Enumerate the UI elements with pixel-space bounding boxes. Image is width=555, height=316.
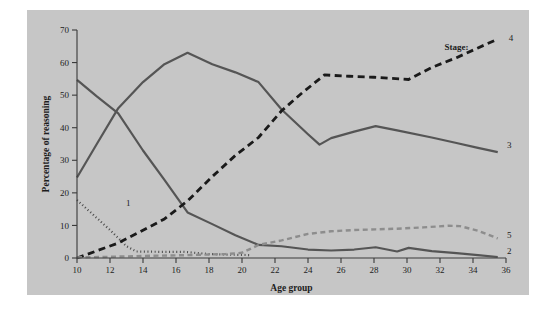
- series-line-3: [77, 53, 498, 178]
- x-tick-label: 28: [370, 265, 380, 275]
- legend-group: Stage:: [445, 42, 469, 52]
- x-tick-label: 24: [304, 265, 314, 275]
- x-tick-label: 18: [205, 265, 215, 275]
- line-chart: 0102030405060701012141618202224262830323…: [27, 10, 529, 295]
- y-tick-label: 40: [60, 123, 70, 133]
- x-tick-label: 34: [469, 265, 479, 275]
- y-tick-label: 20: [60, 188, 70, 198]
- series-label-2: 2: [507, 246, 512, 256]
- x-tick-label: 10: [73, 265, 83, 275]
- y-tick-label: 60: [60, 58, 70, 68]
- series-line-1: [77, 200, 250, 255]
- x-tick-label: 14: [139, 265, 149, 275]
- series-label-4: 4: [509, 33, 514, 43]
- y-tick-label: 10: [60, 221, 70, 231]
- x-tick-label: 20: [238, 265, 248, 275]
- figure-container: 0102030405060701012141618202224262830323…: [0, 0, 555, 316]
- x-tick-label: 12: [106, 265, 115, 275]
- x-tick-label: 30: [403, 265, 413, 275]
- x-tick-label: 36: [502, 265, 512, 275]
- y-tick-label: 70: [60, 25, 70, 35]
- chart-panel: 0102030405060701012141618202224262830323…: [27, 10, 529, 295]
- x-axis-title: Age group: [270, 283, 312, 293]
- y-axis-title: Percentage of reasoning: [41, 95, 51, 192]
- x-tick-label: 16: [172, 265, 182, 275]
- series-label-5: 5: [507, 230, 512, 240]
- y-tick-label: 0: [65, 253, 70, 263]
- series-label-3: 3: [507, 140, 512, 150]
- series-label-1: 1: [126, 198, 130, 208]
- y-tick-label: 50: [60, 90, 70, 100]
- x-tick-label: 26: [337, 265, 347, 275]
- series-line-4: [77, 39, 498, 258]
- axis-lines: [77, 30, 506, 258]
- x-tick-label: 32: [436, 265, 445, 275]
- legend-title: Stage:: [445, 42, 469, 52]
- x-tick-label: 22: [271, 265, 280, 275]
- series-group: [77, 39, 498, 258]
- y-tick-label: 30: [60, 155, 70, 165]
